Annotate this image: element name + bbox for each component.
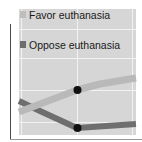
legend-swatch-favor [20,11,26,18]
marker-oppose-middle [74,124,82,132]
legend-label-favor: Favor euthanasia [29,9,110,21]
marker-favor-middle [74,86,82,94]
line-chart: Favor euthanasia Oppose euthanasia [0,0,142,142]
legend-label-oppose: Oppose euthanasia [29,39,120,51]
legend-swatch-oppose [20,41,26,48]
